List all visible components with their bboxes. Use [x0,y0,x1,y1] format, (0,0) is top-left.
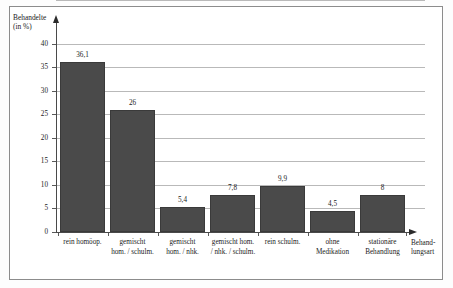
bar-rein-homoeop [60,62,105,232]
category-label-gemischt-hom-nhk-schulm: gemischt hom. / nhk. / schulm. [203,238,263,257]
bar-gemischt-hom-nhk-schulm [210,195,255,232]
xtick-mark-7 [406,233,407,236]
category-label-line: gemischt [155,238,210,248]
category-label-line: hom. / nhk. [155,248,210,258]
gridline-35 [56,67,425,68]
category-label-rein-homoeop: rein homöop. [55,238,110,248]
bar-value-gemischt-hom-nhk: 5,4 [160,196,205,204]
category-label-line: rein homöop. [55,238,110,248]
category-label-line: gemischt hom. [203,238,263,248]
ytick-label-35: 35 [22,63,48,71]
category-label-line: Medikation [305,248,360,258]
bar-value-rein-homoeop: 36,1 [60,51,105,59]
category-label-stationaere-behandlung: stationäre Behandlung [355,238,410,257]
bar-gemischt-hom-nhk [160,207,205,232]
ytick-label-40: 40 [22,40,48,48]
ytick-label-30: 30 [22,87,48,95]
bar-gemischt-hom-schulm [110,110,155,232]
xtick-mark-0 [58,233,59,236]
y-axis-arrow [53,15,59,23]
x-axis-title-line2: lungsart [411,248,447,257]
ytick-label-20: 20 [22,134,48,142]
bar-ohne-medikation [310,211,355,232]
ytick-label-15: 15 [22,157,48,165]
y-axis-title-line1: Behandelte [13,13,46,22]
xtick-mark-6 [358,233,359,236]
category-label-ohne-medikation: ohne Medikation [305,238,360,257]
xtick-mark-1 [108,233,109,236]
gridline-40 [56,44,425,45]
x-axis-arrow [409,229,417,235]
category-label-rein-schulm: rein schulm. [255,238,310,248]
category-label-line: rein schulm. [255,238,310,248]
category-label-gemischt-hom-nhk: gemischt hom. / nhk. [155,238,210,257]
y-axis-line [56,22,57,232]
xtick-mark-4 [258,233,259,236]
plot-area: Behandelte (in %) 40 35 30 25 20 15 10 5… [0,0,453,288]
ytick-label-10: 10 [22,181,48,189]
bar-value-rein-schulm: 9,9 [260,175,305,183]
category-label-line: ohne [305,238,360,248]
x-axis-title: Behand- lungsart [411,239,447,257]
bar-value-gemischt-hom-nhk-schulm: 7,8 [210,184,255,192]
category-label-line: stationäre [355,238,410,248]
bar-stationaere-behandlung [360,195,405,232]
category-label-line: Behandlung [355,248,410,258]
ytick-label-5: 5 [22,204,48,212]
category-label-line: gemischt [105,238,160,248]
category-label-line: / nhk. / schulm. [203,248,263,258]
x-axis-title-line1: Behand- [411,239,447,248]
ytick-label-0: 0 [22,228,48,236]
xtick-mark-3 [208,233,209,236]
bar-value-gemischt-hom-schulm: 26 [110,99,155,107]
gridline-30 [56,91,425,92]
xtick-mark-2 [158,233,159,236]
gridline-20 [56,0,425,1]
bar-value-ohne-medikation: 4,5 [310,200,355,208]
xtick-mark-5 [308,233,309,236]
category-label-line: hom. / schulm. [105,248,160,258]
y-axis-title-line2: (in %) [13,22,46,31]
y-axis-title: Behandelte (in %) [13,13,46,31]
chart-figure: Behandelte (in %) 40 35 30 25 20 15 10 5… [0,0,453,288]
ytick-label-25: 25 [22,110,48,118]
category-label-gemischt-hom-schulm: gemischt hom. / schulm. [105,238,160,257]
bar-value-stationaere-behandlung: 8 [360,184,405,192]
bar-rein-schulm [260,186,305,232]
